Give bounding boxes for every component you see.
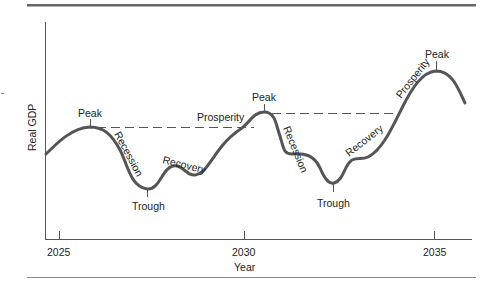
x-axis-title: Year — [234, 261, 256, 273]
business-cycle-chart: 2025 2030 2035 Year Real GDP Peak Recess… — [0, 0, 495, 294]
prosperity1-label: Prosperity — [197, 111, 245, 123]
top-rule — [27, 4, 476, 7]
recovery2-label: Recovery — [343, 121, 386, 158]
bottom-rule — [27, 277, 476, 278]
y-axis-title: Real GDP — [26, 104, 38, 151]
x-tick-label-2035: 2035 — [423, 246, 447, 258]
trough1-label: Trough — [132, 200, 165, 212]
peak3-label: Peak — [425, 48, 450, 60]
stray-mark — [1, 93, 4, 94]
trough2-label: Trough — [317, 197, 350, 209]
x-tick-label-2025: 2025 — [47, 246, 71, 258]
peak1-label: Peak — [78, 107, 103, 119]
x-tick-label-2030: 2030 — [232, 246, 256, 258]
peak2-label: Peak — [252, 91, 277, 103]
recovery1-label: Recovery — [162, 153, 209, 176]
prosperity2-label: Prosperity — [393, 55, 432, 100]
